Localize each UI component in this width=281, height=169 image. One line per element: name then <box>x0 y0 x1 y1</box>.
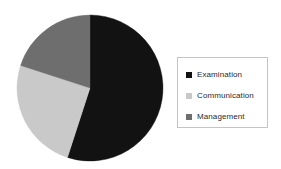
chart-legend: Examination Communication Management <box>177 57 268 128</box>
legend-item-management[interactable]: Management <box>186 106 267 127</box>
legend-item-label: Communication <box>197 91 254 100</box>
square-swatch-icon <box>186 114 192 120</box>
legend-item-label: Examination <box>197 70 242 79</box>
legend-item-communication[interactable]: Communication <box>186 85 267 106</box>
square-swatch-icon <box>186 72 192 78</box>
pie-slice-group <box>17 15 163 161</box>
pie-chart-figure: Examination Communication Management <box>0 0 281 169</box>
legend-item-label: Management <box>197 112 245 121</box>
square-swatch-icon <box>186 93 192 99</box>
legend-item-examination[interactable]: Examination <box>186 64 267 85</box>
